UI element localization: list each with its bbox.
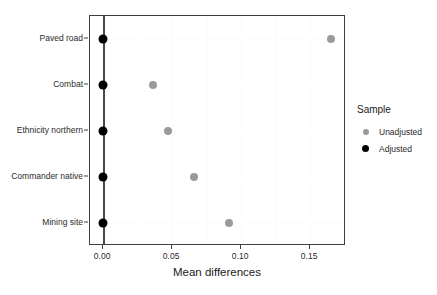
legend: Sample UnadjustedAdjusted [357, 104, 437, 157]
gridline-vertical-minor [138, 16, 139, 244]
x-axis-tick-mark [309, 245, 310, 249]
legend-key [357, 145, 374, 152]
plot-panel [89, 15, 345, 245]
y-axis-tick-mark [84, 222, 88, 223]
data-point-adjusted [99, 81, 108, 90]
x-axis-tick-label: 0.00 [94, 251, 111, 261]
gridline-horizontal [90, 131, 344, 132]
x-axis-tick-mark [171, 245, 172, 249]
legend-dot-icon [362, 145, 369, 152]
x-axis-tick-mark [102, 245, 103, 249]
legend-item-adjusted[interactable]: Adjusted [357, 140, 437, 157]
legend-entries: UnadjustedAdjusted [357, 123, 437, 157]
y-axis-labels: Paved roadCombatEthnicity northernComman… [0, 0, 83, 295]
gridline-vertical [241, 16, 242, 244]
gridline-horizontal [90, 177, 344, 178]
y-axis-tick-mark [84, 176, 88, 177]
data-point-unadjusted [149, 81, 157, 89]
data-point-adjusted [99, 127, 108, 136]
gridline-vertical [310, 16, 311, 244]
data-point-unadjusted [164, 127, 172, 135]
data-point-unadjusted [225, 219, 233, 227]
data-point-unadjusted [327, 35, 335, 43]
gridline-vertical-minor [207, 16, 208, 244]
x-axis-tick-mark [240, 245, 241, 249]
y-axis-tick-mark [84, 38, 88, 39]
data-point-unadjusted [190, 173, 198, 181]
legend-item-label: Adjusted [379, 144, 412, 154]
legend-item-label: Unadjusted [379, 127, 422, 137]
y-axis-tick-label: Combat [53, 79, 83, 89]
x-axis-tick-label: 0.10 [232, 251, 249, 261]
gridline-horizontal [90, 39, 344, 40]
y-axis-tick-mark [84, 130, 88, 131]
y-axis-tick-label: Ethnicity northern [17, 125, 83, 135]
x-axis-tick-label: 0.15 [301, 251, 318, 261]
legend-item-unadjusted[interactable]: Unadjusted [357, 123, 437, 140]
data-point-adjusted [99, 35, 108, 44]
legend-title: Sample [357, 104, 437, 115]
x-axis-title: Mean differences [89, 266, 345, 278]
data-point-adjusted [99, 173, 108, 182]
y-axis-tick-label: Paved road [40, 33, 83, 43]
data-point-adjusted [99, 219, 108, 228]
y-axis-tick-label: Commander native [11, 171, 83, 181]
gridline-vertical-minor [276, 16, 277, 244]
gridline-horizontal [90, 85, 344, 86]
gridline-horizontal [90, 223, 344, 224]
gridline-vertical [172, 16, 173, 244]
y-axis-tick-mark [84, 84, 88, 85]
legend-key [357, 129, 374, 135]
legend-dot-icon [363, 129, 369, 135]
y-axis-tick-label: Mining site [42, 217, 83, 227]
x-axis-tick-label: 0.05 [163, 251, 180, 261]
